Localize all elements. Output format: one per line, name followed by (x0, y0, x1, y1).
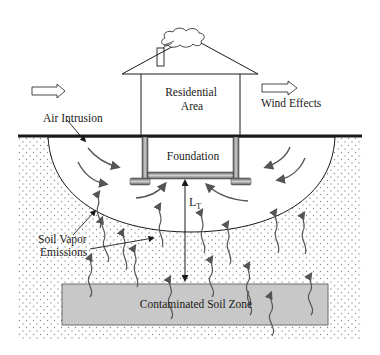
foundation-post-right (233, 137, 239, 179)
footing-left (130, 178, 150, 185)
wind-arrow-right-icon (262, 81, 297, 95)
footing-right (231, 178, 251, 185)
wind-arrow-left-icon (32, 84, 65, 98)
house (122, 28, 258, 136)
lt-label-subscript: T (196, 202, 201, 211)
residential-area-label-line2: Area (181, 100, 203, 112)
soil-vapor-label-line1: Soil Vapor (38, 233, 87, 246)
foundation-slab (148, 172, 233, 179)
lt-label-main: L (189, 195, 196, 209)
wind-effects-label: Wind Effects (261, 97, 322, 109)
soil-vapor-label-line2: Emissions (40, 246, 88, 258)
foundation-label: Foundation (167, 150, 220, 162)
contaminated-soil-zone-label: Contaminated Soil Zone (140, 298, 252, 310)
residential-area-label-line1: Residential (165, 86, 217, 98)
smoke-cloud-icon (162, 28, 205, 47)
air-intrusion-label: Air Intrusion (43, 112, 103, 124)
foundation-post-left (142, 137, 148, 179)
vapor-intrusion-diagram: Residential Area Wind Effects Air Intrus… (0, 0, 380, 355)
chimney (157, 48, 164, 66)
